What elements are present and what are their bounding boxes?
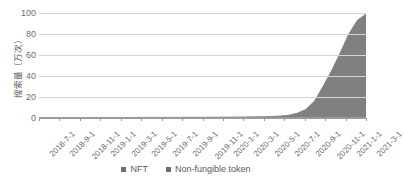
- x-tick-label: 2018-11-1: [91, 130, 122, 161]
- x-tick-label: 2020-1-1: [232, 130, 260, 158]
- x-tick-mark: [39, 118, 40, 121]
- x-tick-mark: [243, 118, 244, 121]
- x-tick-mark: [182, 118, 183, 121]
- x-tick-mark: [284, 118, 285, 121]
- gridline: [39, 97, 366, 98]
- x-tick-label: 2019-7-1: [171, 130, 199, 158]
- legend-label: Non-fungible token: [175, 165, 251, 174]
- x-tick-mark: [121, 118, 122, 121]
- y-tick-label: 80: [14, 30, 36, 39]
- x-tick-label: 2019-5-1: [151, 130, 179, 158]
- series-area-nft: [39, 14, 366, 118]
- y-tick-label: 20: [14, 93, 36, 102]
- y-axis-tick-labels: 020406080100: [12, 0, 36, 184]
- x-tick-label: 2021-3-1: [376, 130, 404, 158]
- x-tick-mark: [305, 118, 306, 121]
- x-tick-label: 2019-11-1: [213, 130, 244, 161]
- x-tick-mark: [223, 118, 224, 121]
- x-tick-mark: [264, 118, 265, 121]
- x-tick-label: 2021-1-1: [355, 130, 383, 158]
- legend-item[interactable]: Non-fungible token: [166, 165, 251, 174]
- y-tick-label: 100: [14, 9, 36, 18]
- y-tick-label: 60: [14, 51, 36, 60]
- x-tick-mark: [80, 118, 81, 121]
- y-tick-label: 0: [14, 114, 36, 123]
- x-tick-label: 2020-7-1: [294, 130, 322, 158]
- gridline: [39, 55, 366, 56]
- x-tick-mark: [141, 118, 142, 121]
- series-paths: [39, 13, 366, 118]
- legend-label: NFT: [130, 165, 148, 174]
- gridline: [39, 76, 366, 77]
- x-tick-label: 2018-7-1: [49, 130, 77, 158]
- x-tick-mark: [162, 118, 163, 121]
- x-tick-label: 2020-9-1: [314, 130, 342, 158]
- legend-swatch-icon: [121, 167, 126, 172]
- x-tick-label: 2020-3-1: [253, 130, 281, 158]
- x-tick-mark: [59, 118, 60, 121]
- x-tick-mark: [100, 118, 101, 121]
- plot-area: [39, 13, 366, 118]
- chart-legend: NFTNon-fungible token: [0, 165, 372, 174]
- legend-swatch-icon: [166, 167, 171, 172]
- x-tick-label: 2020-5-1: [273, 130, 301, 158]
- y-tick-label: 40: [14, 72, 36, 81]
- legend-item[interactable]: NFT: [121, 165, 148, 174]
- x-tick-mark: [366, 118, 367, 121]
- x-tick-label: 2020-11-1: [336, 130, 367, 161]
- x-tick-label: 2019-1-1: [110, 130, 138, 158]
- x-tick-label: 2019-9-1: [192, 130, 220, 158]
- x-axis-tick-marks: [39, 118, 366, 122]
- x-tick-mark: [346, 118, 347, 121]
- x-tick-label: 2018-9-1: [69, 130, 97, 158]
- gridline: [39, 34, 366, 35]
- x-tick-mark: [203, 118, 204, 121]
- x-tick-mark: [325, 118, 326, 121]
- gridline: [39, 13, 366, 14]
- x-tick-label: 2019-3-1: [130, 130, 158, 158]
